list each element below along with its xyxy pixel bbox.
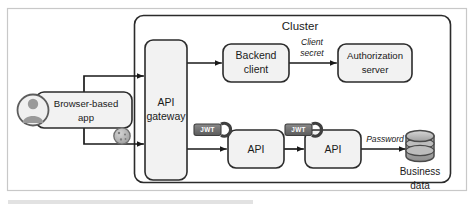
caption-ghost [8,200,253,204]
architecture-diagram-figure: Cluster Browser-based app [0,0,475,208]
jwt-token-label-first: JWT [200,126,214,133]
business-data-label-line2: data [410,180,430,191]
wire-browser-to-gateway-top [84,76,138,92]
api-gateway-label-line1: API [158,96,175,108]
diagram-canvas: Cluster Browser-based app [0,0,475,208]
business-data-label-line1: Business [400,166,441,177]
cluster-title: Cluster [282,20,319,32]
browser-app-label-line1: Browser-based [54,98,119,109]
edge-label-client-secret-line2: secret [300,48,324,58]
backend-client-label-line2: client [244,63,269,75]
node-backend-client[interactable]: Backend client [223,44,289,82]
jwt-token-label-second: JWT [291,126,305,133]
edge-label-password: Password [366,134,404,144]
node-api-gateway[interactable]: API gateway [145,40,187,180]
api-one-label: API [248,143,265,155]
node-browser-based-app[interactable]: Browser-based app [36,92,132,128]
node-authorization-server[interactable]: Authorization server [338,44,412,82]
api-gateway-label-line2: gateway [146,110,186,122]
authorization-server-label-line2: server [362,64,389,75]
jwt-key-icon-first: JWT [194,123,231,136]
user-avatar-icon [18,95,49,126]
jwt-token-ring-first [221,123,231,136]
backend-client-label-line1: Backend [236,49,277,61]
node-api-one[interactable]: API [228,130,284,168]
authorization-server-label-line1: Authorization [347,50,403,61]
cookie-icon [114,128,130,144]
edge-label-client-secret-line1: Client [301,37,324,47]
api-two-label: API [325,143,342,155]
browser-app-label-line2: app [78,112,94,123]
